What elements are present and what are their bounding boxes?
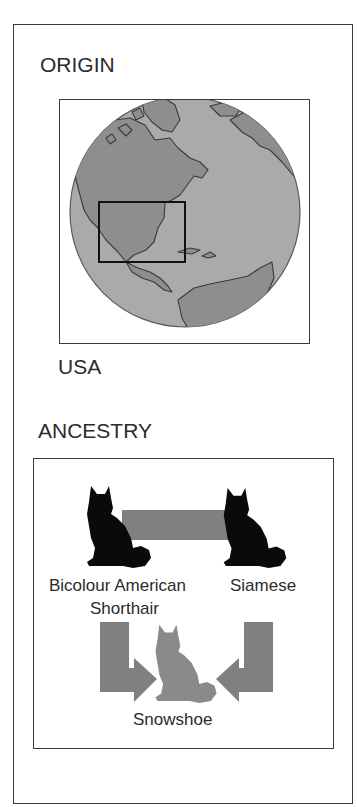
parent-2-name: Siamese (230, 577, 296, 594)
parent-1-name-line2: Shorthair (90, 600, 159, 617)
origin-map (59, 99, 310, 344)
black-cat-silhouette-icon (221, 484, 289, 568)
origin-heading: ORIGIN (40, 53, 115, 77)
gray-cat-silhouette-icon (153, 621, 219, 703)
arrow-down-right-icon (100, 622, 158, 702)
offspring-name: Snowshoe (133, 711, 212, 728)
origin-country: USA (58, 355, 101, 379)
arrow-down-left-icon (216, 622, 274, 702)
black-cat-silhouette-icon (85, 482, 153, 568)
globe-icon (60, 100, 309, 343)
ancestry-heading: ANCESTRY (38, 419, 152, 443)
parent-1-name-line1: Bicolour American (49, 577, 186, 594)
